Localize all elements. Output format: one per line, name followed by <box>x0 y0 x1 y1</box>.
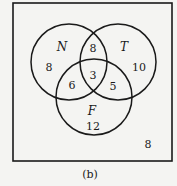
venn-diagram: N T F 8 10 12 8 6 5 3 8 (b) <box>0 0 177 186</box>
region-n-and-t: 8 <box>90 42 97 55</box>
region-f-only: 12 <box>86 120 100 133</box>
figure-caption: (b) <box>82 168 98 181</box>
set-t-label: T <box>120 40 129 54</box>
region-n-only: 8 <box>46 61 53 74</box>
region-outside: 8 <box>145 138 152 151</box>
region-all-three: 3 <box>90 69 97 82</box>
region-t-and-f: 5 <box>110 80 117 93</box>
region-t-only: 10 <box>132 61 146 74</box>
set-f-label: F <box>87 104 97 118</box>
set-n-label: N <box>56 40 68 54</box>
region-n-and-f: 6 <box>69 79 76 92</box>
